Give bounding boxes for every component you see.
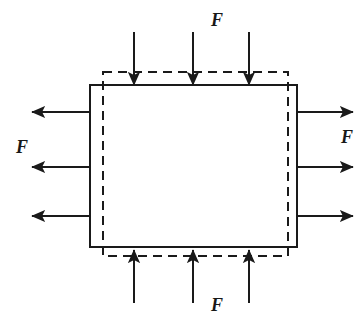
force-label-left: F bbox=[16, 138, 29, 156]
force-label-right: F bbox=[341, 128, 354, 146]
dashed-reference-outline bbox=[103, 72, 288, 256]
solid-body-outline bbox=[90, 85, 297, 247]
solid-body-outline bbox=[90, 85, 297, 247]
force-diagram-canvas bbox=[0, 0, 364, 328]
bottom-compression-arrow-group bbox=[134, 250, 249, 303]
force-diagram-figure: F F F F bbox=[0, 0, 364, 328]
force-label-bottom: F bbox=[211, 296, 224, 314]
force-label-top: F bbox=[211, 11, 224, 29]
left-tension-arrow-group bbox=[32, 112, 90, 216]
top-compression-arrow-group bbox=[134, 32, 249, 85]
dashed-reference-outline bbox=[103, 72, 288, 256]
